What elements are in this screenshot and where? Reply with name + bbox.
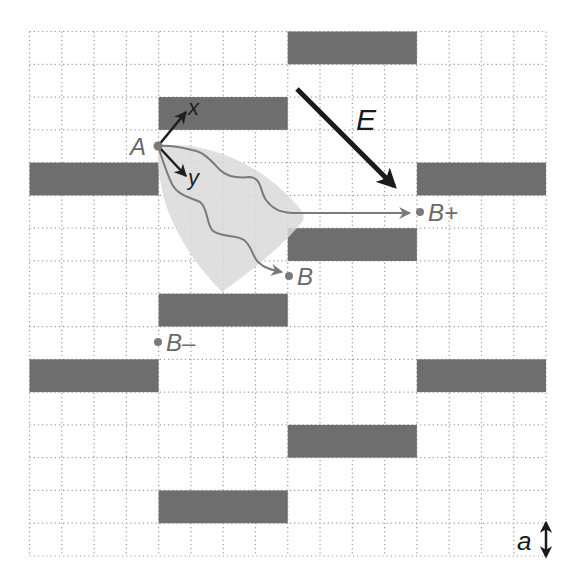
point-a-dot	[154, 142, 163, 151]
obstacle-block	[288, 425, 417, 458]
point-b-plus-dot	[416, 208, 424, 216]
point-b-minus-dot	[154, 338, 162, 346]
point-b-minus-label: B–	[166, 329, 196, 356]
obstacle-block	[288, 228, 417, 261]
point-b-dot	[285, 272, 293, 280]
obstacle-block	[159, 294, 288, 327]
scale-label: a	[517, 526, 531, 556]
obstacle-block	[417, 359, 546, 392]
obstacle-block	[288, 32, 417, 65]
lattice-diagram: x y E A B B+ B– a	[0, 0, 573, 584]
x-axis-label: x	[187, 95, 200, 120]
accessible-cone	[158, 145, 304, 292]
obstacle-block	[159, 490, 288, 523]
field-label: E	[356, 103, 377, 136]
obstacle-block	[417, 163, 546, 196]
y-axis-label: y	[186, 165, 201, 190]
field-arrow-icon	[297, 89, 394, 186]
obstacle-block	[30, 359, 159, 392]
obstacle-block	[159, 97, 288, 130]
point-a-label: A	[128, 133, 146, 160]
point-b-plus-label: B+	[428, 199, 458, 226]
point-b-label: B	[297, 263, 313, 290]
obstacle-block	[30, 163, 159, 196]
